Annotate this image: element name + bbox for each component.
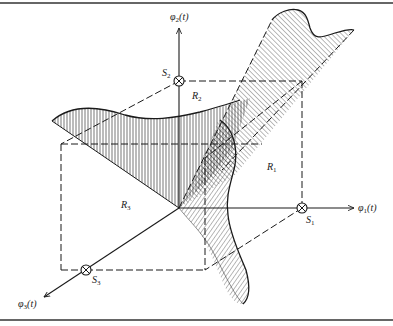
r3-index: 3: [127, 204, 131, 212]
s3-index: 3: [97, 279, 101, 287]
signal-point-s2-marker: [174, 76, 184, 86]
axis-label-phi2: φ2(t): [170, 12, 189, 24]
s1-index: 1: [311, 219, 315, 227]
axis-label-phi3: φ3(t): [18, 299, 37, 311]
signal-space-figure: φ2(t) φ1(t) φ3(t) S2 S1 S3 R2 R1 R3: [0, 0, 393, 326]
region-label-r2: R2: [192, 91, 202, 103]
r1-index: 1: [273, 166, 277, 174]
region-label-r1: R1: [267, 162, 277, 174]
axis-label-phi1: φ1(t): [358, 203, 377, 215]
signal-label-s3: S3: [92, 275, 101, 287]
axis-phi1-arg: (t): [367, 202, 376, 213]
region-label-r3: R3: [121, 200, 131, 212]
signal-label-s1: S1: [306, 215, 315, 227]
signal-point-s1-marker: [297, 203, 307, 213]
signal-label-s2: S2: [162, 68, 171, 80]
axis-phi2-arg: (t): [179, 11, 188, 22]
r2-index: 2: [198, 95, 202, 103]
diagram-canvas: [0, 0, 393, 326]
signal-point-s3-marker: [81, 265, 91, 275]
axis-phi3-arg: (t): [27, 298, 36, 309]
axis-phi3: [44, 208, 179, 297]
s2-index: 2: [167, 72, 171, 80]
